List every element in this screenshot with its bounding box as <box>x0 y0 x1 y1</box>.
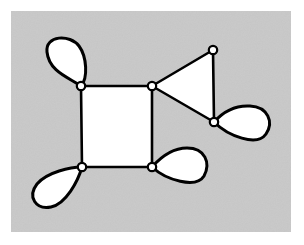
vertex-top-right-square <box>148 82 156 90</box>
vertex-right-loop <box>210 118 218 126</box>
vertex-top-left <box>77 82 85 90</box>
vertex-triangle-apex <box>209 46 217 54</box>
edge-triangle-right <box>213 50 214 122</box>
edge-left-square <box>81 86 82 167</box>
figure-root <box>0 0 304 245</box>
square-face <box>81 86 152 167</box>
vertex-bottom-left <box>78 163 86 171</box>
graph-diagram-canvas <box>0 0 304 245</box>
vertex-bottom-right-square <box>148 163 156 171</box>
